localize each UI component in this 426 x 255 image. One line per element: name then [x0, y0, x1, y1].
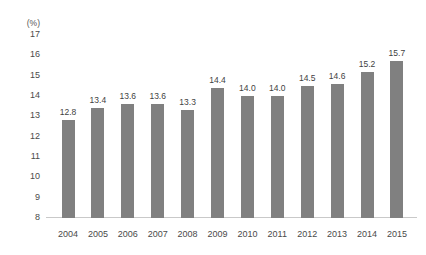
y-axis: (%) 171615141312111098 [0, 0, 46, 255]
bar-value-label: 15.2 [352, 59, 382, 69]
bar-group: 14.02010 [232, 0, 262, 255]
plot-area: 12.8200413.4200513.6200613.6200713.32008… [46, 0, 426, 255]
bar [62, 120, 75, 218]
x-axis-tick-label: 2004 [51, 229, 85, 239]
bar [331, 84, 344, 218]
x-axis-tick-label: 2007 [141, 229, 175, 239]
bar-group: 14.02011 [262, 0, 292, 255]
bar-group: 15.22014 [352, 0, 382, 255]
bar [361, 72, 374, 218]
bar-value-label: 14.0 [232, 83, 262, 93]
bar-group: 14.62013 [322, 0, 352, 255]
bar-group: 14.52012 [292, 0, 322, 255]
x-axis-tick-label: 2009 [201, 229, 235, 239]
bar-value-label: 14.6 [322, 71, 352, 81]
x-axis-tick-label: 2012 [290, 229, 324, 239]
x-axis-tick-label: 2011 [260, 229, 294, 239]
bar [211, 88, 224, 218]
y-axis-tick-label: 11 [0, 151, 40, 161]
bar [390, 61, 403, 218]
bar-value-label: 13.6 [113, 91, 143, 101]
bar-value-label: 14.4 [203, 75, 233, 85]
bar [301, 86, 314, 218]
x-axis-tick-label: 2014 [350, 229, 384, 239]
bar [271, 96, 284, 218]
x-axis-tick-label: 2005 [81, 229, 115, 239]
bar-group: 13.42005 [83, 0, 113, 255]
y-axis-tick-label: 13 [0, 110, 40, 120]
y-axis-unit-label: (%) [0, 18, 40, 28]
y-axis-tick-label: 10 [0, 171, 40, 181]
y-axis-tick-label: 16 [0, 49, 40, 59]
y-axis-tick-label: 12 [0, 131, 40, 141]
bar [121, 104, 134, 218]
bar-value-label: 15.7 [382, 48, 412, 58]
x-axis-tick-label: 2008 [171, 229, 205, 239]
bar-value-label: 13.4 [83, 95, 113, 105]
y-axis-tick-label: 17 [0, 29, 40, 39]
bar-value-label: 12.8 [53, 107, 83, 117]
bar-value-label: 14.5 [292, 73, 322, 83]
bar-group: 13.32008 [173, 0, 203, 255]
y-axis-tick-label: 8 [0, 212, 40, 222]
bar-value-label: 13.3 [173, 97, 203, 107]
x-axis-tick-label: 2010 [230, 229, 264, 239]
bar [241, 96, 254, 218]
y-axis-tick-label: 14 [0, 90, 40, 100]
bar [151, 104, 164, 218]
bar-group: 12.82004 [53, 0, 83, 255]
bar [91, 108, 104, 218]
bar-value-label: 14.0 [262, 83, 292, 93]
bar-group: 15.72015 [382, 0, 412, 255]
bar-chart: (%) 171615141312111098 12.8200413.420051… [0, 0, 426, 255]
x-axis-tick-label: 2013 [320, 229, 354, 239]
bar [181, 110, 194, 218]
bar-group: 13.62006 [113, 0, 143, 255]
bar-group: 14.42009 [203, 0, 233, 255]
x-axis-tick-label: 2015 [380, 229, 414, 239]
bar-group: 13.62007 [143, 0, 173, 255]
y-axis-tick-label: 15 [0, 70, 40, 80]
y-axis-tick-label: 9 [0, 192, 40, 202]
x-axis-tick-label: 2006 [111, 229, 145, 239]
bar-value-label: 13.6 [143, 91, 173, 101]
